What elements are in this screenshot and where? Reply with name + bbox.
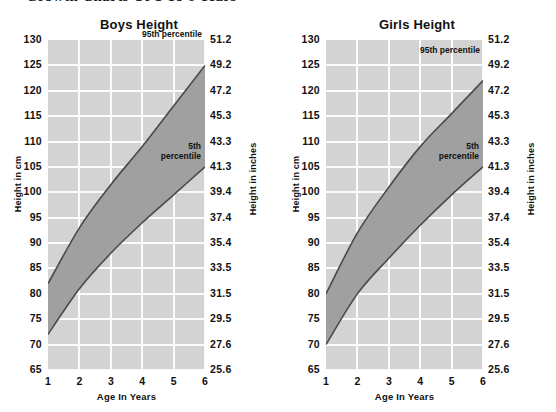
y-axis-tick-cm: 65 bbox=[8, 363, 42, 375]
y-axis-tick-inches: 39.4 bbox=[210, 185, 244, 197]
y-axis-tick-inches: 29.5 bbox=[210, 312, 244, 324]
plot-area-boys bbox=[48, 40, 205, 370]
plot-area-girls bbox=[326, 40, 483, 370]
x-axis-tick-age: 3 bbox=[379, 375, 399, 387]
y-axis-tick-cm: 125 bbox=[8, 58, 42, 70]
y-axis-tick-inches: 35.4 bbox=[488, 236, 522, 248]
annotation-95th-percentile-girls: 95th percentile bbox=[329, 45, 480, 55]
x-axis-title-boys: Age In Years bbox=[48, 391, 205, 402]
y-axis-tick-inches: 47.2 bbox=[210, 84, 244, 96]
y-axis-tick-cm: 105 bbox=[8, 160, 42, 172]
annotation-5th-line1-boys: 5th bbox=[188, 141, 201, 151]
y-axis-tick-inches: 31.5 bbox=[210, 287, 244, 299]
percentile-band-fill bbox=[48, 65, 205, 334]
y-axis-tick-inches: 43.3 bbox=[210, 135, 244, 147]
y-axis-tick-inches: 25.6 bbox=[488, 363, 522, 375]
x-axis-tick-age: 1 bbox=[38, 375, 58, 387]
y-axis-tick-inches: 41.3 bbox=[210, 160, 244, 172]
y-axis-title-inches-boys: Height in inches bbox=[248, 134, 258, 224]
x-axis-tick-age: 2 bbox=[347, 375, 367, 387]
y-axis-tick-cm: 110 bbox=[8, 135, 42, 147]
y-axis-tick-inches: 43.3 bbox=[488, 135, 522, 147]
y-axis-tick-inches: 47.2 bbox=[488, 84, 522, 96]
annotation-5th-line1-girls: 5th bbox=[466, 141, 479, 151]
y-axis-tick-cm: 65 bbox=[286, 363, 320, 375]
y-axis-tick-cm: 105 bbox=[286, 160, 320, 172]
y-axis-tick-inches: 27.6 bbox=[210, 338, 244, 350]
y-axis-tick-inches: 27.6 bbox=[488, 338, 522, 350]
y-axis-tick-cm: 120 bbox=[8, 84, 42, 96]
annotation-5th-percentile-boys: 5th percentile bbox=[149, 141, 201, 161]
y-axis-tick-cm: 115 bbox=[286, 109, 320, 121]
y-axis-tick-cm: 115 bbox=[8, 109, 42, 121]
y-axis-tick-inches: 51.2 bbox=[210, 33, 244, 45]
y-axis-tick-cm: 70 bbox=[8, 338, 42, 350]
y-axis-tick-cm: 75 bbox=[286, 312, 320, 324]
percentile-band-svg bbox=[326, 40, 483, 370]
x-axis-title-girls: Age In Years bbox=[326, 391, 483, 402]
y-axis-tick-inches: 31.5 bbox=[488, 287, 522, 299]
x-axis-tick-age: 4 bbox=[410, 375, 430, 387]
y-axis-tick-cm: 95 bbox=[8, 211, 42, 223]
page-heading-text: Growth Charts Of 1 To 6 Years bbox=[26, 0, 237, 5]
x-axis-tick-age: 4 bbox=[132, 375, 152, 387]
x-axis-tick-age: 6 bbox=[195, 375, 215, 387]
y-axis-title-inches-girls: Height in inches bbox=[526, 134, 536, 224]
chart-girls-height: Girls Height Height in cm Height in inch… bbox=[278, 9, 556, 412]
y-axis-tick-inches: 49.2 bbox=[210, 58, 244, 70]
x-axis-tick-age: 2 bbox=[69, 375, 89, 387]
y-axis-tick-inches: 49.2 bbox=[488, 58, 522, 70]
y-axis-tick-cm: 120 bbox=[286, 84, 320, 96]
chart-title-girls: Girls Height bbox=[278, 17, 556, 32]
y-axis-tick-inches: 37.4 bbox=[488, 211, 522, 223]
y-axis-tick-cm: 100 bbox=[286, 185, 320, 197]
y-axis-tick-cm: 95 bbox=[286, 211, 320, 223]
y-axis-tick-cm: 110 bbox=[286, 135, 320, 147]
y-axis-tick-inches: 45.3 bbox=[210, 109, 244, 121]
annotation-5th-line2-boys: percentile bbox=[161, 151, 201, 161]
y-axis-tick-inches: 37.4 bbox=[210, 211, 244, 223]
percentile-band-svg bbox=[48, 40, 205, 370]
y-axis-tick-inches: 33.5 bbox=[488, 261, 522, 273]
y-axis-tick-cm: 85 bbox=[8, 261, 42, 273]
y-axis-tick-cm: 85 bbox=[286, 261, 320, 273]
y-axis-tick-inches: 41.3 bbox=[488, 160, 522, 172]
y-axis-tick-cm: 90 bbox=[8, 236, 42, 248]
y-axis-tick-cm: 75 bbox=[8, 312, 42, 324]
y-axis-tick-cm: 125 bbox=[286, 58, 320, 70]
y-axis-tick-inches: 35.4 bbox=[210, 236, 244, 248]
y-axis-tick-cm: 130 bbox=[8, 33, 42, 45]
y-axis-tick-inches: 25.6 bbox=[210, 363, 244, 375]
y-axis-tick-inches: 29.5 bbox=[488, 312, 522, 324]
y-axis-tick-cm: 70 bbox=[286, 338, 320, 350]
annotation-5th-percentile-girls: 5th percentile bbox=[427, 141, 479, 161]
x-axis-tick-age: 6 bbox=[473, 375, 493, 387]
y-axis-tick-inches: 45.3 bbox=[488, 109, 522, 121]
y-axis-tick-inches: 33.5 bbox=[210, 261, 244, 273]
y-axis-tick-cm: 90 bbox=[286, 236, 320, 248]
page-heading: Growth Charts Of 1 To 6 Years bbox=[0, 0, 556, 9]
y-axis-tick-inches: 39.4 bbox=[488, 185, 522, 197]
x-axis-tick-age: 1 bbox=[316, 375, 336, 387]
charts-row: Boys Height Height in cm Height in inche… bbox=[0, 9, 556, 412]
chart-boys-height: Boys Height Height in cm Height in inche… bbox=[0, 9, 278, 412]
x-axis-tick-age: 5 bbox=[164, 375, 184, 387]
y-axis-tick-cm: 130 bbox=[286, 33, 320, 45]
y-axis-tick-inches: 51.2 bbox=[488, 33, 522, 45]
annotation-5th-line2-girls: percentile bbox=[439, 151, 479, 161]
annotation-95th-percentile-boys: 95th percentile bbox=[51, 29, 202, 39]
y-axis-tick-cm: 80 bbox=[286, 287, 320, 299]
y-axis-tick-cm: 100 bbox=[8, 185, 42, 197]
x-axis-tick-age: 5 bbox=[442, 375, 462, 387]
y-axis-tick-cm: 80 bbox=[8, 287, 42, 299]
x-axis-tick-age: 3 bbox=[101, 375, 121, 387]
